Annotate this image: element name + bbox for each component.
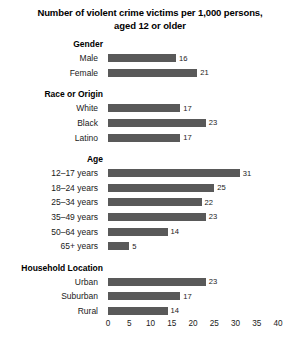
- group-heading: Household Location: [0, 262, 103, 275]
- bar-track: 14: [103, 304, 300, 319]
- bar-value-label: 14: [171, 306, 179, 315]
- bar: [108, 278, 206, 286]
- title-line-1: Number of violent crime victims per 1,00…: [12, 7, 288, 20]
- category-label: 50–64 years: [0, 227, 103, 237]
- bar: [108, 54, 176, 62]
- group-spacer: [0, 80, 300, 88]
- bar: [108, 242, 129, 250]
- bar-row: 65+ years5: [0, 239, 300, 254]
- bar-track: 17: [103, 101, 300, 116]
- bar-row: Female21: [0, 66, 300, 81]
- bar: [108, 169, 240, 177]
- category-label: Male: [0, 53, 103, 63]
- bar-value-label: 23: [209, 118, 217, 127]
- bar-row: Black23: [0, 116, 300, 131]
- bar-row: 35–49 years23: [0, 210, 300, 225]
- bar-row: Male16: [0, 51, 300, 66]
- bar: [108, 104, 180, 112]
- bar-track: 17: [103, 289, 300, 304]
- bar-track: 16: [103, 51, 300, 66]
- bar-value-label: 17: [183, 133, 191, 142]
- category-label: 65+ years: [0, 241, 103, 251]
- x-axis-tick-label: 0: [106, 318, 111, 329]
- bar-value-label: 23: [209, 277, 217, 286]
- bar-value-label: 31: [243, 169, 251, 178]
- category-label: 18–24 years: [0, 183, 103, 193]
- page-title: Number of violent crime victims per 1,00…: [12, 7, 288, 32]
- category-label: 25–34 years: [0, 197, 103, 207]
- bar: [108, 292, 180, 300]
- bar-track: 17: [103, 130, 300, 145]
- bar: [108, 119, 206, 127]
- group-heading: Age: [0, 153, 103, 166]
- x-axis: 0510152025303540: [0, 318, 300, 332]
- bar-track: 23: [103, 210, 300, 225]
- category-label: Female: [0, 68, 103, 78]
- bar: [108, 69, 197, 77]
- bar-track: 14: [103, 224, 300, 239]
- bar-value-label: 17: [183, 104, 191, 113]
- bar-value-label: 23: [209, 212, 217, 221]
- bar-row: Latino17: [0, 130, 300, 145]
- bar-row: Rural14: [0, 304, 300, 319]
- bar-row: 12–17 years31: [0, 166, 300, 181]
- bar-value-label: 25: [217, 183, 225, 192]
- x-axis-tick-label: 40: [273, 318, 282, 329]
- bar: [108, 228, 168, 236]
- bar-value-label: 5: [132, 242, 136, 251]
- category-label: Rural: [0, 306, 103, 316]
- bar-track: 22: [103, 195, 300, 210]
- bar-group: Race or OriginWhite17Black23Latino17: [0, 88, 300, 145]
- bar-row: Urban23: [0, 275, 300, 290]
- bar-value-label: 16: [179, 54, 187, 63]
- category-label: 12–17 years: [0, 168, 103, 178]
- x-axis-tick-label: 20: [188, 318, 197, 329]
- x-axis-tick-label: 5: [127, 318, 132, 329]
- bar-track: 31: [103, 166, 300, 181]
- bar-row: 18–24 years25: [0, 181, 300, 196]
- bar: [108, 184, 214, 192]
- bar: [108, 198, 202, 206]
- bar: [108, 307, 168, 315]
- category-label: 35–49 years: [0, 212, 103, 222]
- group-spacer: [0, 145, 300, 153]
- x-axis-tick-label: 15: [167, 318, 176, 329]
- bar: [108, 213, 206, 221]
- group-spacer: [0, 254, 300, 262]
- x-axis-tick-label: 25: [210, 318, 219, 329]
- bar: [108, 134, 180, 142]
- plot-area: GenderMale16Female21Race or OriginWhite1…: [0, 38, 300, 318]
- bar-value-label: 14: [171, 227, 179, 236]
- group-heading: Gender: [0, 38, 103, 51]
- bar-group: Age12–17 years3118–24 years2525–34 years…: [0, 153, 300, 254]
- bar-value-label: 22: [205, 198, 213, 207]
- category-label: White: [0, 103, 103, 113]
- bar-group: Household LocationUrban23Suburban17Rural…: [0, 262, 300, 319]
- bar-row: Suburban17: [0, 289, 300, 304]
- bar-row: 25–34 years22: [0, 195, 300, 210]
- category-label: Urban: [0, 277, 103, 287]
- bar-chart-figure: Number of violent crime victims per 1,00…: [0, 0, 300, 352]
- bar-group: GenderMale16Female21: [0, 38, 300, 80]
- x-axis-tick-label: 10: [146, 318, 155, 329]
- category-label: Suburban: [0, 291, 103, 301]
- x-axis-tick-label: 35: [252, 318, 261, 329]
- bar-track: 21: [103, 66, 300, 81]
- bar-row: White17: [0, 101, 300, 116]
- title-line-2: aged 12 or older: [12, 20, 288, 33]
- group-heading: Race or Origin: [0, 88, 103, 101]
- bar-track: 5: [103, 239, 300, 254]
- bar-value-label: 21: [200, 68, 208, 77]
- x-axis-tick-label: 30: [231, 318, 240, 329]
- bar-value-label: 17: [183, 292, 191, 301]
- category-label: Black: [0, 118, 103, 128]
- category-label: Latino: [0, 133, 103, 143]
- bar-track: 23: [103, 116, 300, 131]
- bar-track: 23: [103, 275, 300, 290]
- bar-track: 25: [103, 181, 300, 196]
- bar-row: 50–64 years14: [0, 224, 300, 239]
